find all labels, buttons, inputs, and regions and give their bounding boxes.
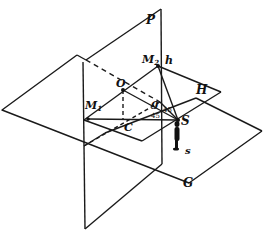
label-s-point: S xyxy=(181,114,190,128)
label-p: P xyxy=(145,13,156,27)
label-o: O xyxy=(116,77,126,90)
m1-s-line xyxy=(88,119,178,120)
label-h-plane: H xyxy=(195,83,208,97)
label-g-plane: G xyxy=(183,176,193,190)
label-g: g xyxy=(151,97,159,110)
label-h: h xyxy=(165,54,173,67)
label-m1: M1 xyxy=(84,99,102,113)
diagram-canvas: P H G h M2 M1 O C g S s 45 45 xyxy=(0,0,267,239)
label-c: C xyxy=(124,121,133,134)
angle-label-2: 45 xyxy=(151,112,160,120)
label-m2: M2 xyxy=(141,53,159,67)
trace-line-solid xyxy=(84,133,105,146)
observer-figure-icon xyxy=(173,121,180,151)
plane-g-edge xyxy=(196,98,262,131)
plane-h-edge xyxy=(158,66,221,92)
point-m1 xyxy=(86,117,90,121)
planes-diagram: P H G h M2 M1 O C g S s 45 45 xyxy=(0,0,267,239)
label-s-observer: s xyxy=(185,145,191,156)
plane-p-right-edge xyxy=(161,9,162,164)
plane-g-edge xyxy=(77,55,86,60)
plane-p-bottom-edge xyxy=(85,164,162,229)
angle-label-1: 45 xyxy=(163,106,172,114)
